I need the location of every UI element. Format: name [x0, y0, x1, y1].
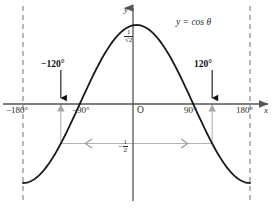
x-tick-label-minus-180: −180° — [6, 106, 28, 115]
marker-triangle-pos-120-icon — [208, 105, 216, 112]
marker-triangle-neg-120-icon — [57, 105, 65, 112]
y-axis-label: y — [124, 5, 128, 14]
y-tick-label-minus-one-half: − 1 2 — [118, 139, 128, 155]
fraction-one-half: 1 2 — [123, 139, 129, 155]
x-tick-label-180: 180° — [236, 106, 253, 115]
annotation-label-minus-120: −120° — [41, 60, 64, 70]
y-tick-label-one-over-root-two: 1 √2 — [124, 29, 133, 45]
x-tick-label-90: 90° — [184, 106, 197, 115]
origin-label: O — [137, 106, 144, 116]
fraction-one-over-root-two: 1 √2 — [124, 29, 133, 45]
fraction-denominator: √2 — [124, 37, 133, 44]
curve-equation-label: y = cos θ — [176, 18, 211, 28]
cosine-graph-figure: y x O y = cos θ −180° −90° 90° 180° 1 √2… — [0, 0, 280, 212]
fraction-denominator: 2 — [123, 147, 129, 154]
annotation-label-120: 120° — [194, 60, 212, 70]
x-axis-label: x — [264, 106, 268, 115]
x-tick-label-minus-90: −90° — [72, 106, 90, 115]
